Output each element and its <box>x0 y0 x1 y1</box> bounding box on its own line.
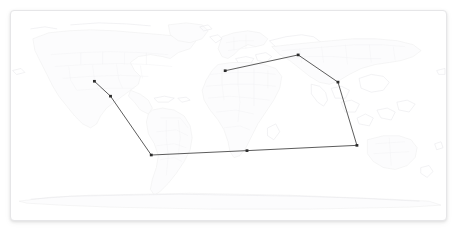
screen-root <box>0 0 459 238</box>
route-overlay[interactable] <box>11 11 446 220</box>
route-marker[interactable] <box>246 149 249 152</box>
route-marker[interactable] <box>150 154 153 157</box>
map-viewport[interactable] <box>11 11 446 220</box>
route-marker[interactable] <box>297 54 300 57</box>
route-marker[interactable] <box>109 95 112 98</box>
map-panel[interactable] <box>10 10 447 221</box>
route-marker[interactable] <box>355 144 358 147</box>
route-marker[interactable] <box>93 80 96 83</box>
route-marker[interactable] <box>224 69 227 72</box>
route-marker[interactable] <box>337 81 340 84</box>
